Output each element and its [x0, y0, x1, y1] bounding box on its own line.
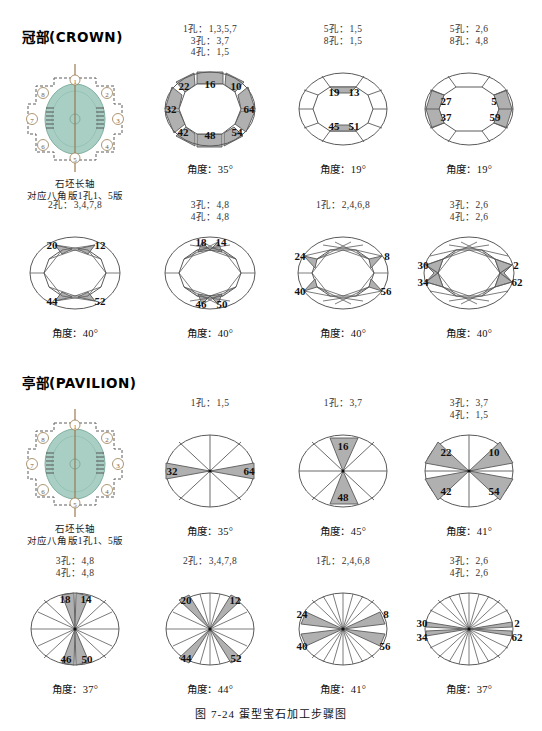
pavilion-step-4: 3孔：4,8 4孔：4,8 18 14 46 50 — [10, 556, 140, 696]
facet-label: 2 — [514, 618, 520, 629]
facet-label: 2 — [513, 260, 519, 271]
octagon-ring-svg — [145, 59, 275, 159]
crown-step-3-holes: 5孔：2,6 8孔：4,8 — [404, 24, 534, 59]
crown-step-3-figure: 27 5 37 59 — [404, 59, 534, 159]
position-label-6: 6 — [41, 488, 45, 496]
facet-label: 40 — [297, 641, 308, 652]
position-label-1: 1 — [73, 423, 77, 431]
pavilion-step-1-holes: 1孔：1,5 — [145, 398, 275, 421]
facet-label: 51 — [349, 121, 360, 132]
pavilion-step-1-figure: 32 64 — [145, 421, 275, 521]
pavilion-step-5: 2孔：3,4,7,8 20 12 44 — [145, 556, 275, 696]
pavilion-step-2: 1孔：3,7 16 48 角度：45° — [278, 398, 408, 538]
crown-step-6: 1孔：2,4,6,8 24 8 40 — [278, 200, 408, 340]
facet-label: 14 — [81, 594, 92, 605]
crown-step-1-holes: 1孔：1,3,5,7 3孔：3,7 4孔：1,5 — [145, 24, 275, 59]
pavilion-reference-cell: 1 2 3 4 5 6 7 8 石坯长轴 对应八角版1孔1、5版 — [10, 405, 140, 547]
facet-label: 50 — [82, 654, 93, 665]
figure-sheet: 冠部(CROWN) — [0, 0, 542, 731]
pie24-a-svg — [278, 579, 408, 679]
pavilion-step-6-holes: 1孔：2,4,6,8 — [278, 556, 408, 579]
position-label-5: 5 — [73, 156, 77, 164]
pavilion-step-1-angle: 角度：35° — [145, 523, 275, 538]
pavilion-step-7-angle: 角度：37° — [404, 681, 534, 696]
crown-step-7-holes: 3孔：2,6 4孔：2,6 — [404, 200, 534, 223]
pie16-a-svg — [10, 579, 140, 679]
position-label-2: 2 — [105, 91, 109, 99]
facet-label: 12 — [95, 240, 106, 251]
facet-label: 13 — [349, 87, 360, 98]
pavilion-step-6-figure: 24 8 40 56 — [278, 579, 408, 679]
pavilion-step-2-figure: 16 48 — [278, 421, 408, 521]
pavilion-step-5-holes: 2孔：3,4,7,8 — [145, 556, 275, 579]
pavilion-step-2-holes: 1孔：3,7 — [278, 398, 408, 421]
facet-label: 52 — [95, 296, 106, 307]
facet-label: 56 — [380, 641, 391, 652]
facet-label: 46 — [196, 299, 207, 310]
pie8-h-svg — [145, 421, 275, 521]
facet-label: 22 — [441, 447, 452, 458]
crown-step-5-holes: 3孔：4,8 4孔：4,8 — [145, 200, 275, 223]
facet-label: 44 — [181, 653, 192, 664]
facet-label: 8 — [384, 251, 390, 262]
crown-step-4-figure: 20 12 44 52 — [10, 223, 140, 323]
crown-step-1: 1孔：1,3,5,7 3孔：3,7 4孔：1,5 16 — [145, 24, 275, 176]
facet-label: 12 — [230, 595, 241, 606]
position-label-2: 2 — [105, 436, 109, 444]
facet-label: 32 — [167, 466, 178, 477]
oval-star24b-svg — [278, 223, 408, 323]
oval-star24-svg — [145, 223, 275, 323]
facet-label: 42 — [178, 127, 189, 138]
position-label-4: 4 — [105, 488, 109, 496]
crown-section-title: 冠部(CROWN) — [22, 26, 123, 46]
position-label-8: 8 — [41, 91, 45, 99]
position-label-1: 1 — [73, 78, 77, 86]
crown-step-1-figure: 16 10 64 54 48 42 32 22 — [145, 59, 275, 159]
facet-label: 18 — [196, 237, 207, 248]
facet-label: 37 — [441, 112, 452, 123]
pavilion-step-3-holes: 3孔：3,7 4孔：1,5 — [404, 398, 534, 421]
crown-step-6-holes: 1孔：2,4,6,8 — [278, 200, 408, 223]
pavilion-step-6-angle: 角度：41° — [278, 681, 408, 696]
pavilion-step-7-figure: 30 2 34 62 — [404, 579, 534, 679]
crown-step-4-holes: 2孔：3,4,7,8 — [10, 200, 140, 223]
pavilion-step-7: 3孔：2,6 4孔：2,6 — [404, 556, 534, 696]
facet-label: 18 — [60, 594, 71, 605]
pavilion-step-5-angle: 角度：44° — [145, 681, 275, 696]
facet-label: 16 — [205, 79, 216, 90]
pie24-b-svg — [404, 579, 534, 679]
crown-reference-cell: 1 2 3 4 5 6 7 8 石坯长轴 对应八角版1孔1、5版 — [10, 60, 140, 202]
facet-label: 44 — [47, 296, 58, 307]
pavilion-step-3-angle: 角度：41° — [404, 523, 534, 538]
facet-label: 54 — [489, 486, 500, 497]
position-label-7: 7 — [30, 117, 34, 125]
facet-label: 14 — [216, 237, 227, 248]
pavilion-dop-svg: 1 2 3 4 5 6 7 8 — [10, 405, 140, 523]
pavilion-step-2-angle: 角度：45° — [278, 523, 408, 538]
facet-label: 46 — [61, 654, 72, 665]
crown-dop-svg: 1 2 3 4 5 6 7 8 — [10, 60, 140, 178]
oval-8facet-side-svg — [404, 59, 534, 159]
crown-reference-axis-label: 石坯长轴 对应八角版1孔1、5版 — [10, 179, 140, 202]
facet-label: 45 — [329, 121, 340, 132]
facet-label: 30 — [418, 260, 429, 271]
facet-label: 22 — [179, 81, 190, 92]
pavilion-step-6: 1孔：2,4,6,8 24 8 — [278, 556, 408, 696]
crown-step-6-angle: 角度：40° — [278, 325, 408, 340]
crown-step-7: 3孔：2,6 4孔：2,6 30 — [404, 200, 534, 340]
crown-step-4: 2孔：3,4,7,8 20 12 44 52 角度：40° — [10, 200, 140, 340]
position-label-7: 7 — [30, 462, 34, 470]
pavilion-step-4-holes: 3孔：4,8 4孔：4,8 — [10, 556, 140, 579]
facet-label: 48 — [338, 492, 349, 503]
crown-step-5-angle: 角度：40° — [145, 325, 275, 340]
position-label-3: 3 — [116, 462, 120, 470]
crown-step-6-figure: 24 8 40 56 — [278, 223, 408, 323]
facet-label: 24 — [295, 251, 306, 262]
facet-label: 42 — [441, 486, 452, 497]
facet-label: 48 — [205, 130, 216, 141]
pavilion-step-1: 1孔：1,5 32 64 角度：35° — [145, 398, 275, 538]
facet-label: 19 — [329, 87, 340, 98]
facet-label: 62 — [512, 277, 523, 288]
facet-label: 34 — [417, 632, 428, 643]
facet-label: 56 — [381, 286, 392, 297]
